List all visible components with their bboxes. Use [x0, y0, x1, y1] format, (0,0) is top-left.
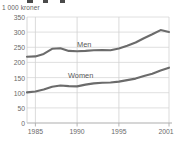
x-tick-1995: 1995: [111, 128, 126, 135]
x-tick-2001: 2001: [158, 128, 173, 135]
series-annotation-men: Men: [77, 40, 91, 49]
x-tick-1990: 1990: [70, 128, 85, 135]
chart-container: 1 000 kroner 350 300 250 200 150 100 50 …: [0, 0, 174, 149]
series-annotation-women: Women: [68, 71, 93, 80]
x-tick-1985: 1985: [28, 128, 43, 135]
